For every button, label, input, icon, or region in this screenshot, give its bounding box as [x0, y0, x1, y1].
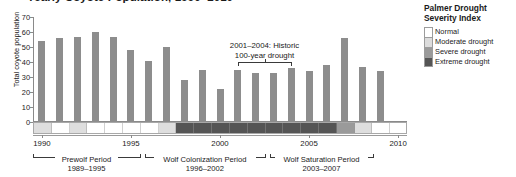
period-years: 1996–2002: [186, 164, 224, 173]
x-tick-label: 2000: [211, 139, 228, 148]
chart-root: Yearly Coyote Population, 1990–2010 Tota…: [0, 0, 516, 177]
legend-title-line1: Palmer Drought: [424, 3, 516, 13]
drought-cell: [105, 123, 123, 133]
bar: [127, 50, 134, 122]
legend-swatch: [424, 47, 433, 57]
drought-cell: [283, 123, 301, 133]
y-tick-label: 70: [22, 13, 30, 22]
annotation-cap: [238, 62, 239, 66]
period-name: Wolf Colonization Period: [163, 155, 246, 164]
y-tick-label: 50: [22, 43, 30, 52]
bar: [38, 41, 45, 122]
drought-cell: [212, 123, 230, 133]
plot-area: 010203040506070: [33, 17, 407, 122]
x-tick-label: 1990: [33, 139, 50, 148]
drought-cell: [372, 123, 390, 133]
bar: [234, 70, 241, 123]
y-tick-mark: [30, 17, 33, 18]
bar: [163, 47, 170, 122]
period-rule: [368, 157, 373, 158]
bar: [217, 89, 224, 122]
legend-swatch: [424, 37, 433, 47]
legend-title-line2: Severity Index: [424, 13, 516, 23]
legend-label: Normal: [435, 27, 516, 37]
bar: [181, 80, 188, 122]
y-tick-mark: [30, 62, 33, 63]
chart-title: Yearly Coyote Population, 1990–2010: [27, 0, 233, 3]
drought-cell: [319, 123, 337, 133]
drought-cell: [266, 123, 284, 133]
y-tick-mark: [30, 47, 33, 48]
legend-label: Extreme drought: [435, 57, 516, 67]
drought-cell: [34, 123, 52, 133]
bar: [323, 65, 330, 122]
drought-cell: [194, 123, 212, 133]
period-name: Wolf Saturation Period: [284, 155, 360, 164]
x-tick-label: 2005: [300, 139, 317, 148]
x-tick-mark: [131, 135, 132, 138]
bar: [377, 71, 384, 122]
y-tick-mark: [30, 32, 33, 33]
legend-label: Severe drought: [435, 47, 516, 57]
period-bracket-cap: [265, 154, 266, 158]
drought-cell: [230, 123, 248, 133]
bar: [306, 71, 313, 122]
bar: [92, 32, 99, 122]
bar: [252, 73, 259, 123]
drought-cell: [248, 123, 266, 133]
drought-index-strip: [33, 122, 407, 134]
period-label: Wolf Colonization Period1996–2002: [163, 155, 246, 174]
bar: [56, 38, 63, 122]
period-rule: [145, 157, 154, 158]
drought-cell: [70, 123, 88, 133]
annotation-text: 2001–2004: Historic100-year drought: [230, 41, 299, 60]
drought-cell: [52, 123, 70, 133]
period-bracket-cap: [140, 154, 141, 158]
bar: [74, 37, 81, 123]
drought-cell: [159, 123, 177, 133]
y-tick-mark: [30, 107, 33, 108]
x-tick-mark: [220, 135, 221, 138]
bar: [288, 68, 295, 122]
legend: Palmer Drought Severity Index NormalMode…: [424, 3, 516, 67]
x-tick-label: 1995: [122, 139, 139, 148]
y-tick-label: 60: [22, 28, 30, 37]
drought-cell: [123, 123, 141, 133]
y-tick-mark: [30, 77, 33, 78]
y-tick-mark: [30, 92, 33, 93]
annotation-cap: [291, 62, 292, 66]
period-rule: [33, 157, 55, 158]
y-axis-label: Total coyote population: [12, 2, 21, 98]
annotation-center-tick: [265, 59, 266, 62]
legend-swatch: [424, 57, 433, 67]
bar: [359, 67, 366, 123]
drought-cell: [87, 123, 105, 133]
bar: [199, 70, 206, 123]
y-tick-label: 20: [22, 88, 30, 97]
period-rule: [270, 157, 275, 158]
drought-cell: [355, 123, 373, 133]
bar: [110, 37, 117, 123]
x-tick-mark: [398, 135, 399, 138]
period-label: Wolf Saturation Period2003–2007: [284, 155, 360, 174]
x-tick-mark: [42, 135, 43, 138]
drought-cell: [337, 123, 355, 133]
y-tick-label: 40: [22, 58, 30, 67]
period-rule: [256, 157, 265, 158]
drought-cell: [301, 123, 319, 133]
x-tick-label: 2010: [389, 139, 406, 148]
drought-cell: [176, 123, 194, 133]
period-bracket-cap: [373, 154, 374, 158]
legend-label: Moderate drought: [435, 37, 516, 47]
period-years: 1989–1995: [67, 164, 105, 173]
legend-swatch: [424, 27, 433, 37]
bar: [341, 38, 348, 122]
drought-cell: [141, 123, 159, 133]
y-tick-label: 30: [22, 73, 30, 82]
annotation-rule: [238, 62, 291, 63]
annotation-line1: 2001–2004: Historic: [230, 41, 299, 50]
period-label: Prewolf Period1989–1995: [62, 155, 111, 174]
bar: [270, 73, 277, 123]
period-years: 2003–2007: [302, 164, 340, 173]
period-name: Prewolf Period: [62, 155, 111, 164]
